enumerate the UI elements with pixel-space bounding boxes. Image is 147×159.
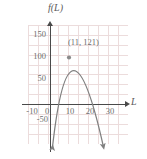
vertex-annotation-label: (11, 121) [68,37,99,47]
parabola-graph-figure: f(L) L -10 0 10 20 30 150 100 50 -50 (11… [0,0,147,159]
vertex-point-marker [67,55,71,59]
parabola-curve [0,0,147,159]
